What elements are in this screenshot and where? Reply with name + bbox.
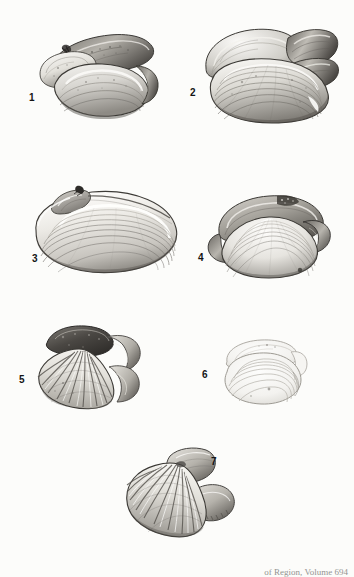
- plate-caption: of Region, Volume 694: [0, 567, 354, 577]
- figure-number-5: 5: [19, 375, 25, 385]
- figure-number-6: 6: [202, 370, 208, 380]
- figure-specimen-1: [36, 26, 161, 121]
- figure-number-4: 4: [198, 253, 204, 263]
- figure-specimen-4: [203, 188, 333, 280]
- figure-specimen-5: [33, 323, 145, 411]
- figure-specimen-2: [196, 22, 341, 127]
- figure-number-1: 1: [29, 93, 35, 103]
- figure-number-3: 3: [32, 254, 38, 264]
- figure-number-2: 2: [190, 88, 196, 98]
- figure-number-7: 7: [211, 457, 217, 467]
- figure-specimen-3: [30, 182, 182, 280]
- figure-specimen-6: [213, 336, 308, 408]
- figure-specimen-7: [122, 444, 244, 539]
